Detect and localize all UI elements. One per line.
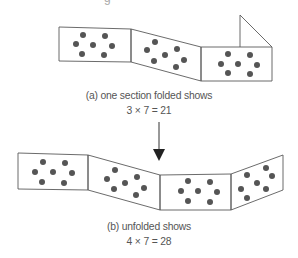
dot-cluster — [144, 39, 187, 70]
caption-a-equation: 3 × 7 = 21 — [15, 103, 283, 117]
down-arrow-icon — [153, 122, 165, 161]
caption-a-line1: (a) one section folded shows — [15, 88, 283, 102]
dot-cluster — [104, 167, 147, 198]
caption-b-equation: 4 × 7 = 28 — [15, 234, 283, 248]
dot-cluster — [73, 32, 115, 58]
dot-cluster — [32, 159, 75, 186]
caption-b-line1: (b) unfolded shows — [15, 219, 283, 233]
top-folded-flap — [240, 15, 272, 47]
dot-cluster — [218, 51, 260, 77]
dot-cluster — [178, 178, 220, 205]
